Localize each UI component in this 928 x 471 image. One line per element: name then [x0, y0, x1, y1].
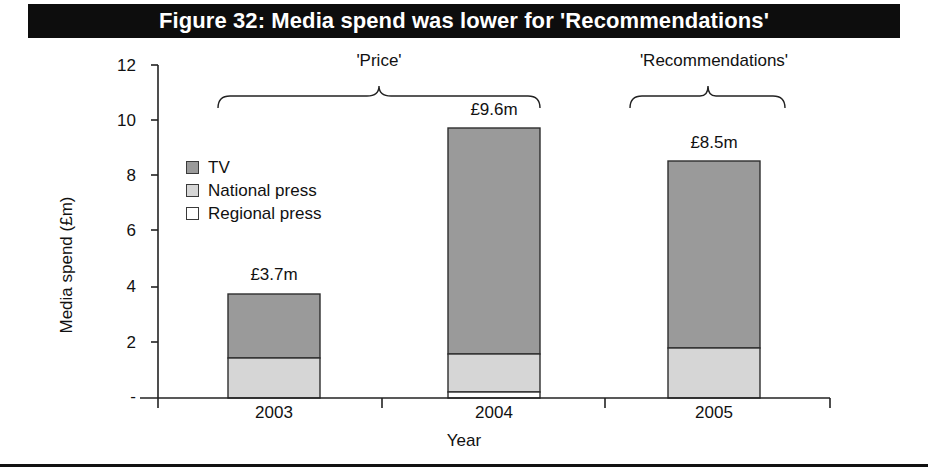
bar-segment-national-press-2005 — [668, 348, 760, 398]
plot-canvas — [0, 40, 928, 471]
bar-segment-tv-2005 — [668, 161, 760, 348]
bracket-recommendations — [630, 86, 785, 108]
bar-2005 — [668, 161, 760, 398]
chart-figure: Media spend (£m) 12 10 8 6 4 2 - 'Price'… — [0, 40, 928, 471]
bar-segment-tv-2004 — [448, 128, 540, 354]
bar-segment-tv-2003 — [228, 294, 320, 358]
bar-segment-regional-press-2004 — [448, 392, 540, 398]
bar-2003 — [228, 294, 320, 398]
page-title: Figure 32: Media spend was lower for 'Re… — [159, 8, 769, 34]
figure-bottom-rule — [0, 464, 928, 467]
bar-segment-national-press-2003 — [228, 358, 320, 398]
figure-title-banner: Figure 32: Media spend was lower for 'Re… — [28, 4, 900, 38]
bar-2004 — [448, 128, 540, 398]
bracket-price — [218, 86, 540, 108]
bar-segment-national-press-2004 — [448, 354, 540, 392]
